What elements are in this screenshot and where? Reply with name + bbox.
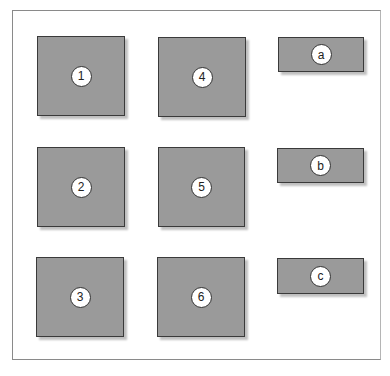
label-circle-3: 3 xyxy=(70,287,91,308)
label-circle-6: 6 xyxy=(191,287,212,308)
box-3: 3 xyxy=(36,257,124,337)
box-a: a xyxy=(278,37,364,72)
label-circle-b: b xyxy=(310,155,331,176)
box-4: 4 xyxy=(158,37,246,117)
label-circle-1: 1 xyxy=(71,66,92,87)
box-1: 1 xyxy=(37,36,125,116)
label-circle-4: 4 xyxy=(192,67,213,88)
box-6: 6 xyxy=(157,257,245,337)
box-b: b xyxy=(277,148,364,183)
box-2: 2 xyxy=(37,147,125,227)
label-circle-c: c xyxy=(310,266,331,287)
label-circle-5: 5 xyxy=(191,177,212,198)
box-c: c xyxy=(277,258,364,294)
label-circle-a: a xyxy=(311,44,332,65)
box-5: 5 xyxy=(158,147,245,227)
label-circle-2: 2 xyxy=(71,177,92,198)
